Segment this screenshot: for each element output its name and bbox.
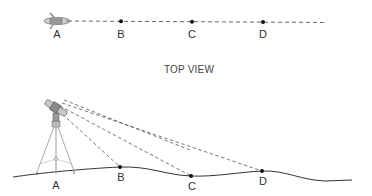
survey-diagram: A B C D TOP VIEW [0, 0, 372, 196]
top-point-d [261, 20, 265, 24]
top-view-title: TOP VIEW [164, 64, 214, 75]
side-label-d: D [259, 175, 267, 187]
tripod-instrument-icon [37, 98, 74, 175]
top-label-c: C [188, 28, 196, 40]
side-label-a: A [52, 179, 60, 191]
top-label-b: B [117, 28, 124, 40]
side-point-b [118, 165, 122, 169]
terrain-line [13, 167, 352, 181]
instrument-top-icon [44, 13, 70, 29]
side-point-d [260, 169, 264, 173]
sight-line-upper [64, 100, 190, 150]
sight-line-c [60, 106, 191, 176]
side-view: A B C D [13, 98, 352, 192]
side-point-c [189, 174, 193, 178]
top-label-d: D [259, 28, 267, 40]
top-sight-line [68, 21, 326, 23]
top-view: A B C D TOP VIEW [44, 13, 326, 75]
top-point-b [119, 19, 123, 23]
side-label-b: B [117, 171, 124, 183]
top-point-c [190, 20, 194, 24]
side-label-c: C [188, 180, 196, 192]
top-label-a: A [53, 28, 61, 40]
